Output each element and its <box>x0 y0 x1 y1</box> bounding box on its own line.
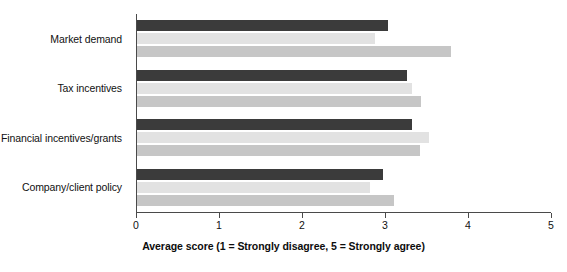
x-axis-tick <box>219 213 220 218</box>
y-axis-line <box>136 14 137 212</box>
x-axis-tick <box>385 213 386 218</box>
bar <box>136 46 451 57</box>
category-label: Company/client policy <box>22 181 122 193</box>
x-axis-tick-label: 2 <box>299 219 305 231</box>
category-label: Financial incentives/grants <box>1 132 122 144</box>
bar <box>136 119 412 130</box>
x-axis-tick <box>136 213 137 218</box>
x-axis-tick-label: 0 <box>133 219 139 231</box>
bar-chart: Market demandTax incentivesFinancial inc… <box>0 0 567 272</box>
plot-area <box>136 14 551 212</box>
bar <box>136 96 421 107</box>
x-axis-tick-label: 1 <box>216 219 222 231</box>
bar <box>136 169 383 180</box>
bar <box>136 33 375 44</box>
x-axis-tick-label: 5 <box>548 219 554 231</box>
bar <box>136 70 407 81</box>
category-label: Tax incentives <box>57 82 122 94</box>
x-axis-tick <box>468 213 469 218</box>
category-axis-labels: Market demandTax incentivesFinancial inc… <box>0 14 130 212</box>
category-label: Market demand <box>50 33 122 45</box>
x-axis-tick-label: 4 <box>465 219 471 231</box>
bar <box>136 145 420 156</box>
bar <box>136 182 370 193</box>
bar <box>136 83 412 94</box>
bar <box>136 195 394 206</box>
x-axis-tick-label: 3 <box>382 219 388 231</box>
bar <box>136 132 429 143</box>
x-axis-title: Average score (1 = Strongly disagree, 5 … <box>0 240 567 252</box>
x-axis-tick <box>551 213 552 218</box>
bar <box>136 20 388 31</box>
x-axis-tick <box>302 213 303 218</box>
x-axis-line <box>136 212 551 213</box>
